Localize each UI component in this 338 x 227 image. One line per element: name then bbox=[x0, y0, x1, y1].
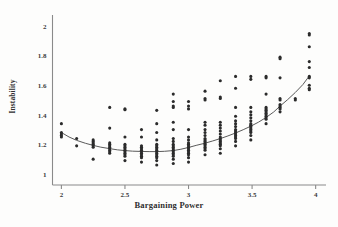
scatter-point bbox=[204, 124, 207, 127]
scatter-point bbox=[308, 88, 311, 91]
scatter-point bbox=[249, 138, 252, 141]
scatter-point bbox=[219, 132, 222, 135]
scatter-point bbox=[234, 115, 237, 118]
chart-figure: 11.21.41.61.82 22.533.54 Bargaining Powe… bbox=[0, 0, 338, 227]
scatter-point bbox=[75, 137, 78, 140]
scatter-point bbox=[123, 135, 126, 138]
scatter-point bbox=[187, 100, 190, 103]
scatter-point bbox=[265, 76, 268, 79]
scatter-point bbox=[219, 152, 222, 155]
scatter-point bbox=[279, 57, 282, 60]
scatter-point bbox=[92, 158, 95, 161]
x-tick-label: 3.5 bbox=[232, 191, 272, 199]
scatter-point bbox=[204, 98, 207, 101]
scatter-point bbox=[108, 106, 111, 109]
scatter-point bbox=[234, 140, 237, 143]
scatter-point bbox=[204, 121, 207, 124]
scatter-point bbox=[249, 110, 252, 113]
scatter-point bbox=[140, 135, 143, 138]
scatter-point bbox=[219, 124, 222, 127]
trend-line-path bbox=[61, 76, 309, 152]
scatter-point bbox=[249, 113, 252, 116]
scatter-point bbox=[155, 109, 158, 112]
scatter-point bbox=[249, 78, 252, 81]
tick-marks bbox=[61, 185, 315, 189]
x-tick-label: 3 bbox=[169, 191, 209, 199]
scatter-point bbox=[155, 156, 158, 159]
scatter-point bbox=[234, 137, 237, 140]
scatter-point bbox=[204, 149, 207, 152]
scatter-point bbox=[249, 75, 252, 78]
scatter-point bbox=[172, 155, 175, 158]
scatter-point bbox=[187, 156, 190, 159]
scatter-point bbox=[172, 162, 175, 165]
scatter-point bbox=[279, 110, 282, 113]
scatter-point bbox=[187, 153, 190, 156]
scatter-point bbox=[172, 137, 175, 140]
scatter-point bbox=[75, 144, 78, 147]
scatter-point bbox=[279, 107, 282, 110]
scatter-point bbox=[140, 161, 143, 164]
scatter-point bbox=[294, 98, 297, 101]
scatter-point bbox=[172, 93, 175, 96]
scatter-point bbox=[204, 128, 207, 131]
scatter-point bbox=[108, 127, 111, 130]
y-axis-title: Instability bbox=[8, 57, 17, 137]
x-tick-label: 2.5 bbox=[105, 191, 145, 199]
scatter-point bbox=[187, 161, 190, 164]
scatter-point bbox=[265, 93, 268, 96]
scatter-point bbox=[155, 122, 158, 125]
scatter-point bbox=[172, 100, 175, 103]
y-tick-label: 1 bbox=[9, 171, 47, 179]
scatter-point bbox=[234, 87, 237, 90]
scatter-point bbox=[308, 76, 311, 79]
scatter-point bbox=[249, 106, 252, 109]
scatter-point bbox=[279, 76, 282, 79]
scatter-point bbox=[60, 135, 63, 138]
scatter-point bbox=[234, 106, 237, 109]
scatter-point bbox=[140, 128, 143, 131]
scatter-point bbox=[123, 159, 126, 162]
scatter-point bbox=[308, 84, 311, 87]
scatter-point bbox=[219, 97, 222, 100]
x-tick-label: 4 bbox=[296, 191, 336, 199]
scatter-point bbox=[172, 140, 175, 143]
scatter-point bbox=[204, 131, 207, 134]
x-tick-label: 2 bbox=[41, 191, 81, 199]
scatter-point bbox=[265, 118, 268, 121]
scatter-point bbox=[60, 122, 63, 125]
scatter-point bbox=[234, 119, 237, 122]
scatter-point bbox=[155, 159, 158, 162]
scatter-point bbox=[108, 152, 111, 155]
fitted-trend-line bbox=[61, 76, 309, 152]
scatter-point bbox=[308, 60, 311, 63]
scatter-point bbox=[204, 134, 207, 137]
scatter-point bbox=[123, 155, 126, 158]
x-axis-title: Bargaining Power bbox=[0, 200, 338, 210]
scatter-point bbox=[249, 134, 252, 137]
scatter-point bbox=[155, 164, 158, 167]
scatter-point bbox=[308, 45, 311, 48]
scatter-point bbox=[172, 128, 175, 131]
scatter-point bbox=[219, 127, 222, 130]
scatter-point bbox=[155, 138, 158, 141]
scatter-point bbox=[187, 128, 190, 131]
scatter-point bbox=[140, 156, 143, 159]
y-tick-label: 2 bbox=[9, 23, 47, 31]
scatter-point bbox=[219, 147, 222, 150]
scatter-point bbox=[187, 104, 190, 107]
scatter-point bbox=[234, 144, 237, 147]
scatter-point bbox=[249, 116, 252, 119]
scatter-point bbox=[249, 119, 252, 122]
scatter-point bbox=[123, 108, 126, 111]
scatter-point bbox=[219, 79, 222, 82]
scatter-point bbox=[172, 158, 175, 161]
scatter-point bbox=[279, 98, 282, 101]
y-tick-label: 1.2 bbox=[9, 141, 47, 149]
scatter-point bbox=[92, 146, 95, 149]
scatter-point bbox=[187, 138, 190, 141]
scatter-point bbox=[234, 125, 237, 128]
scatter-point bbox=[219, 144, 222, 147]
scatter-point bbox=[187, 107, 190, 110]
scatter-point bbox=[172, 106, 175, 109]
